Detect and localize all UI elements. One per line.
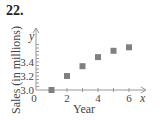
scatter-chart: 02463.03.23.4yxYearSales (in millions) <box>0 0 157 122</box>
data-point <box>111 48 117 54</box>
data-point <box>80 63 86 69</box>
y-variable-label: y <box>28 29 35 43</box>
data-point <box>95 54 101 60</box>
x-axis-title: Year <box>73 102 95 116</box>
y-axis-title: Sales (in millions) <box>9 26 23 114</box>
data-point <box>126 44 132 50</box>
x-tick-label: 2 <box>64 92 70 104</box>
axes <box>33 28 146 93</box>
data-point <box>64 73 70 79</box>
data-point <box>49 87 55 93</box>
data-points <box>49 44 133 93</box>
x-tick-label: 6 <box>126 92 132 104</box>
x-variable-label: x <box>139 91 146 105</box>
axis-labels: 02463.03.23.4yxYearSales (in millions) <box>9 26 146 116</box>
x-tick-label: 4 <box>95 92 101 104</box>
